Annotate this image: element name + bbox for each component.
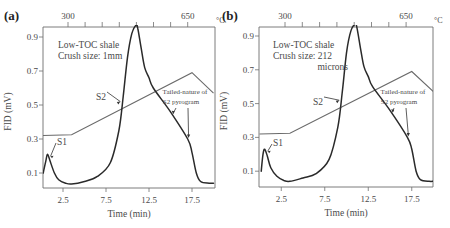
x-axis-title: Time (min) [107,209,150,220]
y-tick-label: 0.1 [27,168,38,178]
s1-arrow [268,144,272,151]
x-tick-label: 7.5 [100,195,112,205]
y-tick-label: 0.7 [27,66,39,76]
y-axis-title: FID (mV) [219,92,230,130]
x-tick-label: 2.5 [57,195,69,205]
x-tick-label: 12.5 [141,195,157,205]
s2-peak-label: S2 [313,97,323,107]
y-tick-label: 0.9 [243,31,255,41]
y-axis-title: FID (mV) [3,92,14,130]
sample-description-line: microns [317,62,348,72]
y-tick-label: 0.3 [27,134,39,144]
s2-peak-label: S2 [96,92,106,102]
sample-description-line: Crush size: 212 [273,51,332,61]
top-axis-unit: °C [434,16,443,25]
panel-label: (a) [4,8,19,23]
s2-arrow [107,92,120,102]
s1-peak-label: S1 [57,137,67,147]
tail-arrow-2 [406,108,408,134]
top-tick-label-300: 300 [61,11,75,21]
top-tick-label-300: 300 [278,11,292,21]
s1-arrow [51,143,56,156]
y-tick-label: 0.5 [27,100,39,110]
x-tick-label: 7.5 [319,194,331,204]
x-tick-label: 12.5 [360,194,376,204]
x-tick-label: 17.5 [404,194,420,204]
tail-annotation-line: Tailed-nature of [163,88,208,96]
chart-panel-a: (a)300650°C0.90.70.50.30.12.57.512.517.5… [3,8,225,220]
s2-arrow [324,97,339,100]
s2-arrowhead [336,100,340,103]
sample-description-line: Low-TOC shale [58,40,119,50]
y-tick-label: 0.7 [243,65,255,75]
tail-arrow-2 [188,108,189,136]
panel-label: (b) [222,8,238,23]
y-tick-label: 0.1 [243,166,254,176]
s2-arrowhead [117,102,121,105]
top-tick-label-650: 650 [399,11,413,21]
y-tick-label: 0.3 [243,132,255,142]
top-tick-label-650: 650 [181,11,195,21]
tail-annotation-line: S2 pyrogram [163,98,200,106]
sample-description-line: Crush size: 1mm [58,51,123,61]
x-axis-title: Time (min) [324,208,367,219]
sample-description-line: Low-TOC shale [273,40,334,50]
tail-annotation-line: Tailed-nature of [381,88,426,96]
s1-peak-label: S1 [273,138,283,148]
y-tick-label: 0.5 [243,99,255,109]
x-tick-label: 2.5 [276,194,288,204]
tail-annotation-line: S2 pyrogram [381,98,418,106]
y-tick-label: 0.9 [27,32,39,42]
x-tick-label: 17.5 [184,195,200,205]
chart-panel-b: (b)300650°C0.90.70.50.30.12.57.512.517.5… [219,8,443,219]
figure-canvas: (a)300650°C0.90.70.50.30.12.57.512.517.5… [0,0,450,228]
